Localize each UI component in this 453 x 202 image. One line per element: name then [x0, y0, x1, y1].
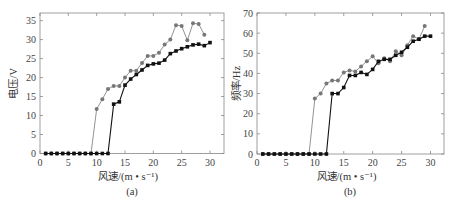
data-point-circle: [100, 97, 104, 101]
data-point-square: [411, 39, 415, 43]
data-point-square: [382, 58, 386, 62]
y-tick-label: 35: [26, 15, 36, 26]
data-point-circle: [342, 70, 346, 74]
data-point-square: [169, 52, 173, 56]
y-axis-title: 频率/Hz: [230, 66, 242, 102]
data-point-square: [307, 152, 311, 156]
data-point-square: [330, 92, 334, 96]
data-point-square: [101, 152, 105, 156]
y-tick-label: 20: [26, 72, 36, 83]
x-tick-label: 0: [255, 157, 260, 168]
data-point-circle: [140, 61, 144, 65]
data-point-square: [429, 34, 433, 38]
data-point-circle: [106, 87, 110, 91]
panel-label: (b): [344, 186, 357, 198]
data-point-circle: [134, 69, 138, 73]
x-tick-label: 5: [283, 157, 288, 168]
data-point-square: [180, 47, 184, 51]
data-point-square: [359, 71, 363, 75]
data-point-square: [118, 100, 122, 104]
panel-label: (a): [126, 186, 138, 198]
data-point-square: [123, 83, 127, 87]
data-point-circle: [123, 76, 127, 80]
data-point-circle: [202, 33, 206, 37]
data-point-circle: [423, 24, 427, 28]
data-point-square: [296, 152, 300, 156]
data-point-circle: [353, 69, 357, 73]
chart-panel-a: 05101520253005101520253035风速/(m • s⁻¹)电压…: [7, 13, 224, 198]
data-point-square: [61, 152, 65, 156]
y-tick-label: 10: [26, 110, 36, 121]
data-point-circle: [324, 82, 328, 86]
data-point-square: [365, 73, 369, 77]
series-line: [263, 26, 425, 154]
x-tick-label: 30: [426, 157, 436, 168]
data-point-circle: [371, 54, 375, 58]
x-tick-label: 10: [310, 157, 320, 168]
y-tick-label: 0: [248, 149, 253, 160]
data-point-circle: [197, 22, 201, 26]
x-tick-label: 10: [92, 157, 102, 168]
x-tick-label: 25: [177, 157, 187, 168]
data-point-circle: [394, 49, 398, 53]
x-tick-label: 5: [66, 157, 71, 168]
x-axis-title: 风速/(m • s⁻¹): [317, 171, 377, 183]
data-point-square: [342, 86, 346, 90]
data-point-square: [301, 152, 305, 156]
data-point-square: [95, 152, 99, 156]
data-point-square: [67, 152, 71, 156]
data-point-square: [146, 64, 150, 68]
data-point-square: [325, 152, 329, 156]
y-tick-label: 25: [26, 53, 36, 64]
y-tick-label: 30: [26, 34, 36, 45]
data-point-circle: [330, 78, 334, 82]
data-point-circle: [157, 51, 161, 55]
data-point-square: [106, 152, 110, 156]
data-point-square: [336, 92, 340, 96]
data-point-square: [377, 60, 381, 64]
data-point-square: [261, 152, 265, 156]
data-point-square: [157, 61, 161, 65]
data-point-square: [152, 62, 156, 66]
data-point-circle: [174, 23, 178, 27]
data-point-circle: [180, 24, 184, 28]
data-point-circle: [168, 38, 172, 42]
data-point-circle: [319, 92, 323, 96]
data-point-square: [44, 152, 48, 156]
x-axis-title: 风速/(m • s⁻¹): [98, 171, 158, 183]
x-tick-label: 30: [205, 157, 215, 168]
y-tick-label: 50: [243, 48, 253, 59]
y-tick-label: 30: [243, 88, 253, 99]
data-point-square: [290, 152, 294, 156]
series-line: [263, 36, 431, 154]
data-point-square: [423, 34, 427, 38]
data-point-circle: [191, 21, 195, 25]
plot-frame: [40, 13, 224, 154]
y-tick-label: 0: [31, 148, 36, 159]
data-point-square: [348, 74, 352, 78]
data-point-square: [174, 49, 178, 53]
data-point-circle: [313, 97, 317, 101]
data-point-square: [267, 152, 271, 156]
data-point-square: [417, 37, 421, 41]
plot-frame: [257, 13, 444, 154]
data-point-circle: [411, 34, 415, 38]
y-tick-label: 5: [31, 129, 36, 140]
data-point-square: [203, 44, 207, 48]
y-tick-label: 40: [243, 68, 253, 79]
data-point-square: [354, 74, 358, 78]
data-point-square: [406, 45, 410, 49]
data-point-square: [129, 77, 133, 81]
data-point-square: [394, 54, 398, 58]
data-point-square: [186, 45, 190, 49]
data-point-circle: [359, 64, 363, 68]
data-point-circle: [112, 84, 116, 88]
data-point-square: [55, 152, 59, 156]
data-point-square: [319, 152, 323, 156]
data-point-circle: [348, 68, 352, 72]
y-tick-label: 70: [243, 8, 253, 19]
data-point-square: [208, 41, 212, 45]
data-point-square: [371, 68, 375, 72]
x-tick-label: 25: [397, 157, 407, 168]
y-tick-label: 10: [243, 128, 253, 139]
